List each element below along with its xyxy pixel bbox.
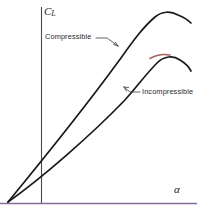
chart-plot-area: [0, 0, 197, 215]
y-axis-label: CL: [44, 6, 56, 18]
x-axis-label: α: [174, 184, 180, 195]
incompressible-curve-label: Incompressible: [142, 88, 193, 95]
y-axis-label-subscript: L: [51, 9, 55, 18]
compressible-curve: [8, 12, 191, 202]
incompressible-curve: [8, 57, 191, 202]
lift-curve-chart: CL α Compressible Incompressible: [0, 0, 197, 215]
compressible-curve-label: Compressible: [45, 33, 91, 40]
